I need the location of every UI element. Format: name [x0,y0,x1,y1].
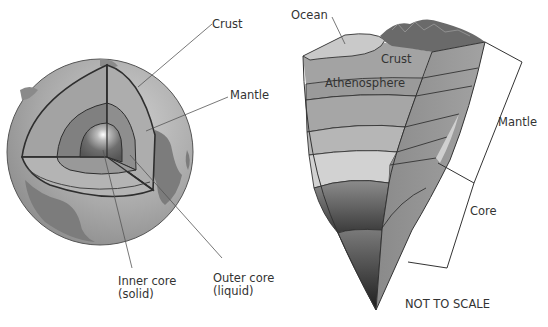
label-mantle-right: Mantle [498,116,537,129]
cutaway-globe [7,24,228,268]
label-asthenosphere: Athenosphere [325,76,405,90]
label-outer-core-line2: (liquid) [213,285,274,298]
label-inner-core-line2: (solid) [118,288,176,301]
label-ocean: Ocean [291,9,328,22]
label-crust-left: Crust [212,18,243,31]
label-core-right: Core [470,205,497,218]
label-outer-core: Outer core (liquid) [213,272,274,298]
label-not-to-scale: NOT TO SCALE [405,298,490,311]
label-inner-core: Inner core (solid) [118,275,176,301]
layer-wedge [303,17,522,310]
label-mantle-left: Mantle [230,89,269,102]
label-crust-right: Crust [381,52,412,66]
crust-leader-line [138,24,212,87]
